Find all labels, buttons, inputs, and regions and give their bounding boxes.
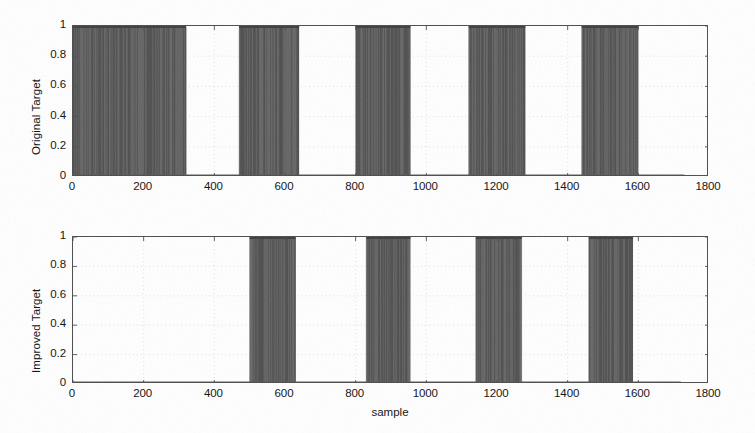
subplot-original-target: Original Target 00.20.40.60.81 020040060… <box>0 0 755 210</box>
x-tick-label: 1600 <box>612 388 662 400</box>
x-tick-label: 1600 <box>612 181 662 193</box>
x-tick-label: 1200 <box>471 181 521 193</box>
x-tick-label: 800 <box>330 388 380 400</box>
x-tick-label: 1200 <box>471 388 521 400</box>
y-axis-label-bottom: Improved Target <box>30 289 42 373</box>
y-tick-label: 0.6 <box>26 79 66 91</box>
y-tick-label: 0.2 <box>26 140 66 152</box>
y-tick-label: 1 <box>26 19 66 31</box>
x-tick-label: 1800 <box>683 181 733 193</box>
y-tick-label: 0.6 <box>26 289 66 301</box>
x-tick-label: 1400 <box>542 181 592 193</box>
x-tick-label: 1000 <box>400 181 450 193</box>
signal-trace-top <box>73 26 708 176</box>
y-tick-label: 0.4 <box>26 318 66 330</box>
subplot-improved-target: Improved Target 00.20.40.60.81 020040060… <box>0 210 755 433</box>
x-tick-label: 1000 <box>400 388 450 400</box>
x-tick-label: 800 <box>330 181 380 193</box>
x-tick-label: 200 <box>118 181 168 193</box>
signal-fill <box>250 237 633 383</box>
y-tick-label: 0.8 <box>26 259 66 271</box>
x-tick-label: 400 <box>188 181 238 193</box>
x-axis-label: sample <box>350 406 430 418</box>
x-tick-label: 600 <box>259 388 309 400</box>
y-tick-label: 0.2 <box>26 348 66 360</box>
x-tick-label: 0 <box>47 181 97 193</box>
x-tick-label: 400 <box>188 388 238 400</box>
y-tick-label: 0.8 <box>26 49 66 61</box>
x-tick-label: 200 <box>118 388 168 400</box>
x-tick-label: 0 <box>47 388 97 400</box>
x-tick-label: 600 <box>259 181 309 193</box>
signal-trace-bottom <box>73 237 708 383</box>
figure: Original Target 00.20.40.60.81 020040060… <box>0 0 755 433</box>
x-tick-label: 1400 <box>542 388 592 400</box>
y-tick-label: 0 <box>26 170 66 182</box>
x-tick-label: 1800 <box>683 388 733 400</box>
plot-area-bottom <box>72 236 708 383</box>
y-tick-label: 1 <box>26 230 66 242</box>
signal-fill <box>73 26 638 176</box>
plot-area-top <box>72 25 708 176</box>
y-tick-label: 0.4 <box>26 110 66 122</box>
y-tick-label: 0 <box>26 377 66 389</box>
